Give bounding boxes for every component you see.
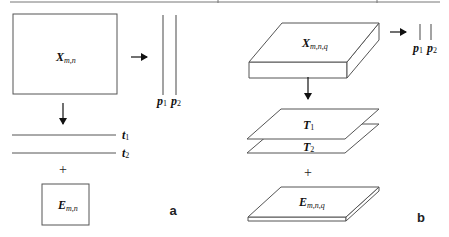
loading-p2-label: p2 bbox=[426, 41, 437, 55]
plus-operator: + bbox=[59, 162, 67, 177]
score-t2-label: t2 bbox=[122, 146, 129, 160]
plus-operator: + bbox=[304, 165, 312, 180]
panel-b: Xm,n,q p1 p2 T1 T2 + Em,n,q bbox=[247, 23, 437, 225]
panel-a: Xm,n p1 p2 t1 t2 + Em,n a bbox=[12, 14, 181, 225]
matrix-x-box bbox=[13, 14, 117, 94]
panel-a-label: a bbox=[169, 203, 177, 218]
loading-p2-label: p2 bbox=[170, 94, 181, 108]
loading-p1-label: p1 bbox=[156, 94, 167, 108]
pca-decomposition-diagram: Xm,n p1 p2 t1 t2 + Em,n a bbox=[0, 0, 449, 237]
score-t1-label: t1 bbox=[122, 128, 129, 142]
panel-b-label: b bbox=[417, 210, 425, 225]
top-rule bbox=[10, 0, 440, 3]
loading-p1-label: p1 bbox=[412, 41, 423, 55]
